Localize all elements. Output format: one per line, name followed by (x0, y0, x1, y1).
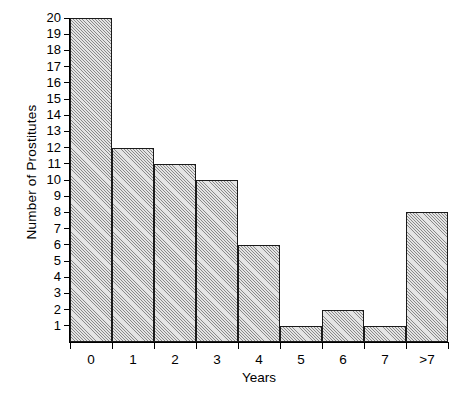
histogram-bar (280, 326, 322, 342)
y-tick-label: 1 (54, 318, 61, 334)
histogram-figure: Number of Prostitutes 123456789101112131… (0, 0, 471, 413)
x-tick-mark (112, 342, 113, 349)
x-tick-label: 3 (196, 351, 238, 369)
x-tick-label: 0 (70, 351, 112, 369)
y-tick-label: 12 (47, 140, 61, 156)
y-tick-label: 8 (54, 204, 61, 220)
x-tick-mark (322, 342, 323, 349)
x-tick-mark (154, 342, 155, 349)
y-tick-label: 20 (47, 10, 61, 26)
x-tick-mark (280, 342, 281, 349)
histogram-bar (196, 180, 238, 342)
histogram-bar (406, 212, 448, 342)
x-tick-label: 7 (364, 351, 406, 369)
y-tick-label: 6 (54, 237, 61, 253)
y-tick-label: 19 (47, 26, 61, 42)
y-tick-label: 3 (54, 285, 61, 301)
y-axis-title: Number of Prostitutes (16, 2, 46, 342)
histogram-bar (70, 18, 112, 342)
x-tick-mark (70, 342, 71, 349)
histogram-bar (112, 148, 154, 342)
histogram-bar (154, 164, 196, 342)
x-tick-mark (196, 342, 197, 349)
plot-area: 1234567891011121314151617181920 01234567… (70, 18, 448, 342)
x-tick-label: 4 (238, 351, 280, 369)
x-tick-label: 6 (322, 351, 364, 369)
y-tick-label: 5 (54, 253, 61, 269)
x-axis-title: Years (70, 370, 448, 385)
x-tick-label: 5 (280, 351, 322, 369)
y-tick-label: 11 (48, 156, 62, 172)
histogram-bar (364, 326, 406, 342)
x-tick-mark (238, 342, 239, 349)
x-axis-line (69, 342, 449, 343)
y-tick-label: 4 (54, 269, 61, 285)
histogram-bar (238, 245, 280, 342)
y-tick-label: 18 (47, 42, 61, 58)
x-tick-label: >7 (406, 351, 448, 369)
y-tick-label: 13 (47, 123, 61, 139)
histogram-bar (322, 310, 364, 342)
y-tick-label: 10 (47, 172, 61, 188)
x-tick-mark (364, 342, 365, 349)
x-tick-label: 2 (154, 351, 196, 369)
y-tick-label: 17 (47, 59, 61, 75)
y-tick-label: 9 (54, 188, 61, 204)
y-tick-label: 2 (54, 302, 61, 318)
y-tick-label: 15 (47, 91, 61, 107)
bar-series (70, 18, 448, 342)
x-tick-mark (406, 342, 407, 349)
x-tick-mark (448, 342, 449, 349)
y-tick-label: 7 (54, 221, 61, 237)
y-tick-label: 16 (47, 75, 61, 91)
y-tick-label: 14 (47, 107, 61, 123)
x-tick-label: 1 (112, 351, 154, 369)
